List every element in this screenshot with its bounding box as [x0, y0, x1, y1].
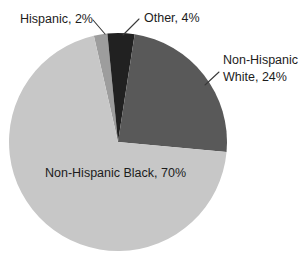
label-other: Other, 4% [144, 10, 200, 27]
pie-chart [0, 0, 306, 261]
other-leader-line [123, 19, 139, 35]
pie-slice-non-hispanic-white [118, 34, 227, 152]
nonhispanic-white-leader-line [205, 72, 219, 85]
pie-slices [9, 33, 227, 251]
label-hispanic: Hispanic, 2% [20, 11, 93, 28]
hispanic-leader-line [93, 20, 105, 34]
label-nonhispanic-white: Non-Hispanic White, 24% [223, 52, 306, 86]
label-nonhispanic-black: Non-Hispanic Black, 70% [45, 165, 186, 182]
pie-chart-figure: Hispanic, 2% Other, 4% Non-Hispanic Whit… [0, 0, 306, 261]
